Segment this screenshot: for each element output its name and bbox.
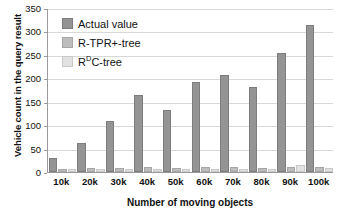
- legend-label-rdc-tree-post: C-tree: [91, 56, 122, 68]
- legend-label-rdc-tree-pre: R: [78, 56, 86, 68]
- bar: [306, 25, 315, 172]
- legend-item-rdc-tree: RDC-tree: [62, 55, 141, 68]
- bar: [239, 169, 248, 173]
- legend-swatch-rdc-tree: [62, 56, 73, 67]
- bar: [77, 143, 86, 172]
- bar: [49, 158, 58, 172]
- bar: [296, 165, 305, 172]
- y-axis-tick: 0: [11, 168, 41, 177]
- bar: [249, 87, 258, 172]
- chart-legend: Actual value R-TPR+-tree RDC-tree: [62, 17, 141, 68]
- bar: [211, 169, 220, 173]
- bar-group: [162, 9, 191, 172]
- bar: [201, 167, 210, 172]
- bar: [258, 168, 267, 172]
- bar: [115, 168, 124, 172]
- bar: [153, 169, 162, 173]
- bar: [325, 168, 334, 172]
- bar: [287, 167, 296, 172]
- bar: [220, 75, 229, 172]
- bar: [182, 169, 191, 173]
- y-axis-title: Vehicle count in the query result: [12, 6, 23, 166]
- bar: [106, 121, 115, 172]
- legend-label-actual-value: Actual value: [78, 18, 138, 30]
- bar: [230, 167, 239, 172]
- x-axis-tick: 100k: [302, 176, 336, 187]
- bar: [172, 168, 181, 172]
- legend-item-actual-value: Actual value: [62, 17, 141, 30]
- bar: [58, 169, 67, 173]
- x-axis-title: Number of moving objects: [47, 197, 333, 208]
- bar: [163, 110, 172, 172]
- bar: [268, 169, 277, 173]
- legend-swatch-actual-value: [62, 18, 73, 29]
- bar-group: [220, 9, 249, 172]
- bar-group: [305, 9, 334, 172]
- bar-group: [277, 9, 306, 172]
- bar: [68, 169, 77, 173]
- legend-label-rdc-tree: RDC-tree: [78, 56, 122, 68]
- bar: [134, 95, 143, 172]
- bar-group: [191, 9, 220, 172]
- bar-chart: Vehicle count in the query result 050100…: [0, 0, 338, 224]
- y-axis-tickmark: [44, 173, 47, 174]
- bar: [315, 167, 324, 172]
- bar: [96, 169, 105, 173]
- bar-group: [248, 9, 277, 172]
- bar: [144, 167, 153, 172]
- legend-label-rtpr-tree: R-TPR+-tree: [78, 37, 141, 49]
- bar: [87, 168, 96, 172]
- legend-item-rtpr-tree: R-TPR+-tree: [62, 36, 141, 49]
- bar: [192, 82, 201, 172]
- bar: [125, 169, 134, 173]
- legend-swatch-rtpr-tree: [62, 37, 73, 48]
- bar: [277, 53, 286, 172]
